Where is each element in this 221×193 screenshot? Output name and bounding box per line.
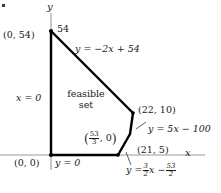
equation-label-slant-top: y = −2x + 54 (75, 44, 140, 54)
equation-label-slant-bottom: y =32x −532 (126, 163, 176, 179)
vertex-label-0-0: (0, 0) (14, 158, 40, 168)
equation-prefix: y = (126, 164, 142, 175)
vertex-dot-0-0 (49, 153, 53, 157)
fraction-53-over-3: 533 (89, 131, 99, 147)
fraction-denominator: 2 (143, 171, 149, 178)
feasible-region-figure: y x 54 (0, 54) (0, 0) (22, 10) (21, 5) (… (0, 0, 221, 193)
feasible-set-label-line1: feasible (67, 88, 104, 99)
fraction-3-over-2: 32 (143, 163, 149, 179)
boundary-slant-middle (130, 113, 133, 134)
fraction-53-over-2: 532 (166, 163, 176, 179)
equation-middle: x − (149, 164, 165, 175)
vertex-label-0-54: (0, 54) (3, 30, 35, 40)
vertex-label-22-10: (22, 10) (138, 105, 176, 115)
equation-label-y-equals-0: y = 0 (55, 158, 80, 168)
fraction-denominator: 2 (166, 171, 176, 178)
paren-close: ) (112, 132, 117, 146)
x-axis-label: x (185, 148, 191, 158)
vertex-dot-0-54 (49, 29, 53, 33)
y-tick-label-54: 54 (57, 24, 69, 34)
vertex-dot-53-3-0 (116, 153, 120, 157)
equation-label-slant-middle: y = 5x − 100 (148, 124, 211, 134)
paren-open: ( (84, 132, 89, 146)
boundary-slant-bottom (118, 134, 130, 155)
y-axis-label: y (47, 2, 53, 12)
fraction-denominator: 3 (89, 139, 99, 146)
vertex-label-53-3-0: (533, 0) (84, 131, 117, 147)
leader-line-slant-middle (136, 122, 146, 129)
feasible-set-label: feasible set (58, 88, 114, 110)
equation-label-x-equals-0: x = 0 (16, 93, 41, 103)
vertex-dot-22-10 (131, 111, 135, 115)
vertex-label-21-5: (21, 5) (137, 145, 169, 155)
feasible-set-label-line2: set (79, 99, 93, 110)
